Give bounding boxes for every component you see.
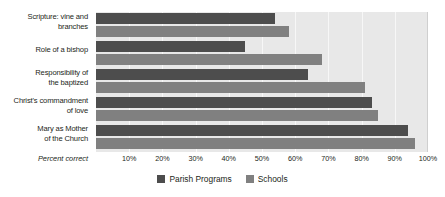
legend-swatch-icon <box>246 175 254 183</box>
plot-area <box>96 12 428 152</box>
bar-group <box>96 69 428 97</box>
bar-parish-programs <box>96 41 245 52</box>
bar-parish-programs <box>96 69 308 80</box>
x-tick-label: 30% <box>183 154 209 163</box>
x-tick-label: 60% <box>282 154 308 163</box>
category-label-line2: of the Church <box>0 134 88 144</box>
legend-label: Schools <box>258 174 288 184</box>
category-label-line1: Mary as Mother <box>0 124 88 134</box>
bar-parish-programs <box>96 97 372 108</box>
x-tick-label: 100% <box>415 154 441 163</box>
bar-parish-programs <box>96 125 408 136</box>
category-label-line1: Christ's commandment <box>0 96 88 106</box>
x-tick-label: 50% <box>249 154 275 163</box>
category-label-line1: Scripture: vine and <box>0 12 88 22</box>
bar-group <box>96 41 428 69</box>
category-label-scripture: Scripture: vine and branches <box>0 12 88 31</box>
category-axis: Scripture: vine and branches Role of a b… <box>0 12 92 152</box>
x-tick-label: 20% <box>149 154 175 163</box>
legend-label: Parish Programs <box>169 174 231 184</box>
bar-group <box>96 125 428 153</box>
x-tick-label: 10% <box>116 154 142 163</box>
x-tick-label: 70% <box>315 154 341 163</box>
category-label-line1: Responsibility of <box>0 68 88 78</box>
legend-item-schools[interactable]: Schools <box>246 174 288 184</box>
bar-schools <box>96 138 415 149</box>
category-label-line2: of love <box>0 106 88 116</box>
bar-schools <box>96 82 365 93</box>
bar-chart: Scripture: vine and branches Role of a b… <box>0 0 445 197</box>
bar-schools <box>96 54 322 65</box>
bar-parish-programs <box>96 13 275 24</box>
x-axis: 10%20%30%40%50%60%70%80%90%100% <box>0 154 445 166</box>
category-label-mary: Mary as Mother of the Church <box>0 124 88 143</box>
x-tick-label: 40% <box>216 154 242 163</box>
legend-item-parish-programs[interactable]: Parish Programs <box>157 174 231 184</box>
bar-schools <box>96 110 378 121</box>
legend-swatch-icon <box>157 175 165 183</box>
x-tick-label: 90% <box>382 154 408 163</box>
bar-group <box>96 97 428 125</box>
category-label-baptized: Responsibility of the baptized <box>0 68 88 87</box>
category-label-line2: branches <box>0 22 88 32</box>
chart-legend: Parish Programs Schools <box>0 174 445 184</box>
category-label-bishop: Role of a bishop <box>0 45 88 55</box>
category-label-commandment: Christ's commandment of love <box>0 96 88 115</box>
bar-schools <box>96 26 289 37</box>
category-label-line1: Role of a bishop <box>0 45 88 55</box>
plot-border-right <box>427 12 428 152</box>
category-label-line2: the baptized <box>0 78 88 88</box>
bar-group <box>96 13 428 41</box>
x-tick-label: 80% <box>349 154 375 163</box>
